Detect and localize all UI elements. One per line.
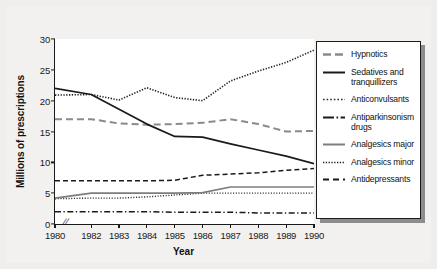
legend-item-label: Hypnotics	[351, 49, 387, 60]
x-axis-tick-mark	[202, 224, 203, 228]
series-line	[55, 88, 314, 163]
legend-item[interactable]: Analgesics minor	[323, 157, 416, 168]
legend-item-label: Sedatives and tranquillizers	[351, 67, 416, 88]
chart-figure: Millions of prescriptions 05101520253019…	[0, 0, 437, 269]
legend-item-label: Analgesics major	[351, 139, 414, 150]
y-axis-tick-mark	[51, 69, 55, 70]
x-axis-tick-label: 1986	[193, 230, 213, 241]
fine-dotted-line-icon	[323, 94, 345, 105]
legend-item[interactable]: Anticonvulsants	[323, 94, 416, 105]
plot-area: 0510152025301980198219831984198519861987…	[54, 39, 314, 225]
chart-legend: HypnoticsSedatives and tranquillizersAnt…	[316, 41, 421, 219]
y-axis-tick-label: 20	[40, 95, 50, 106]
x-axis-tick-label: 1989	[276, 230, 296, 241]
legend-item[interactable]: Antiparkinsonism drugs	[323, 112, 416, 133]
x-axis-tick-mark	[146, 224, 147, 228]
x-axis-tick-mark	[258, 224, 259, 228]
dash-dot-line-icon	[323, 112, 345, 123]
x-axis-tick-mark	[230, 224, 231, 228]
series-line	[55, 187, 314, 198]
figure-canvas: Millions of prescriptions 05101520253019…	[6, 6, 431, 263]
series-line	[55, 169, 314, 181]
y-axis-tick-mark	[51, 193, 55, 194]
legend-item-label: Antiparkinsonism drugs	[351, 112, 416, 133]
long-dash-line-icon	[323, 49, 345, 60]
legend-item-label: Anticonvulsants	[351, 94, 409, 105]
x-axis-tick-mark	[54, 224, 55, 228]
x-axis-tick-label: 1987	[220, 230, 240, 241]
x-axis-tick-mark	[313, 224, 314, 228]
x-axis-tick-mark	[118, 224, 119, 228]
y-axis-tick-label: 5	[45, 188, 50, 199]
x-axis-tick-mark	[91, 224, 92, 228]
dashed-line-icon	[323, 174, 345, 185]
dotted-line-icon	[323, 157, 345, 168]
y-axis-tick-label: 10	[40, 157, 50, 168]
y-axis-tick-mark	[51, 162, 55, 163]
x-axis-tick-label: 1985	[165, 230, 185, 241]
y-axis-label: Millions of prescriptions	[14, 39, 28, 224]
x-axis-tick-label: 1980	[45, 230, 65, 241]
x-axis-tick-mark	[286, 224, 287, 228]
x-axis-tick-label: 1990	[304, 230, 324, 241]
series-line	[55, 212, 314, 213]
x-axis-tick-mark	[174, 224, 175, 228]
legend-item[interactable]: Analgesics major	[323, 139, 416, 150]
solid-gray-line-icon	[323, 139, 345, 150]
x-axis-tick-label: 1984	[137, 230, 157, 241]
y-axis-tick-label: 0	[45, 219, 50, 230]
series-line	[55, 50, 314, 101]
y-axis-tick-mark	[51, 38, 55, 39]
y-axis-tick-mark	[51, 100, 55, 101]
legend-item-label: Antidepressants	[351, 174, 410, 185]
legend-item[interactable]: Hypnotics	[323, 49, 416, 60]
y-axis-tick-mark	[51, 131, 55, 132]
legend-item-label: Analgesics minor	[351, 157, 414, 168]
x-axis-tick-label: 1988	[248, 230, 268, 241]
y-axis-tick-label: 15	[40, 126, 50, 137]
x-axis-label: Year	[54, 246, 313, 257]
solid-line-icon	[323, 67, 345, 78]
legend-item[interactable]: Sedatives and tranquillizers	[323, 67, 416, 88]
x-axis-tick-label: 1983	[109, 230, 129, 241]
x-axis-tick-label: 1982	[81, 230, 101, 241]
series-lines	[55, 39, 314, 224]
legend-item[interactable]: Antidepressants	[323, 174, 416, 185]
series-line	[55, 119, 314, 131]
y-axis-tick-label: 25	[40, 64, 50, 75]
y-axis-tick-label: 30	[40, 34, 50, 45]
